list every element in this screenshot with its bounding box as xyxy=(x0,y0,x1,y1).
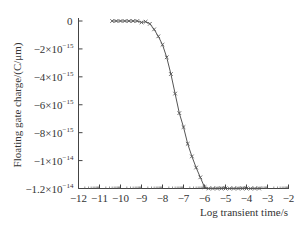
y-tick-label: −6×10−15 xyxy=(34,98,74,111)
y-axis-title: Floating gate charge/(C/μm) xyxy=(11,42,24,167)
y-tick-label: −8×10−15 xyxy=(34,126,74,139)
y-tick-label: −2×10−15 xyxy=(34,42,74,55)
x-tick-label: −3 xyxy=(262,192,274,204)
x-tick-label: −6 xyxy=(199,192,211,204)
data-series xyxy=(110,19,261,190)
x-tick-label: −9 xyxy=(136,192,148,204)
y-ticks: 0−2×10−15−4×10−15−6×10−15−8×10−15−1×10−1… xyxy=(25,15,82,195)
y-tick-label: −1×10−14 xyxy=(34,154,74,167)
data-point-marker xyxy=(152,28,156,32)
y-tick-label: 0 xyxy=(67,15,73,27)
x-tick-label: −11 xyxy=(91,192,108,204)
y-tick-label: −4×10−15 xyxy=(34,70,74,83)
x-tick-label: −4 xyxy=(241,192,253,204)
axes xyxy=(79,18,290,189)
x-tick-label: −12 xyxy=(70,192,87,204)
data-point-marker xyxy=(157,35,161,39)
data-point-marker xyxy=(148,22,152,26)
x-tick-label: −10 xyxy=(112,192,130,204)
series-line xyxy=(112,21,259,189)
x-tick-label: −7 xyxy=(178,192,190,204)
y-tick-label: −1.2×10−14 xyxy=(25,182,74,195)
x-axis-title: Log transient time/s xyxy=(200,206,288,218)
chart: 0−2×10−15−4×10−15−6×10−15−8×10−15−1×10−1… xyxy=(0,0,306,227)
x-tick-label: −2 xyxy=(283,192,295,204)
x-tick-label: −5 xyxy=(220,192,232,204)
x-tick-label: −8 xyxy=(157,192,169,204)
